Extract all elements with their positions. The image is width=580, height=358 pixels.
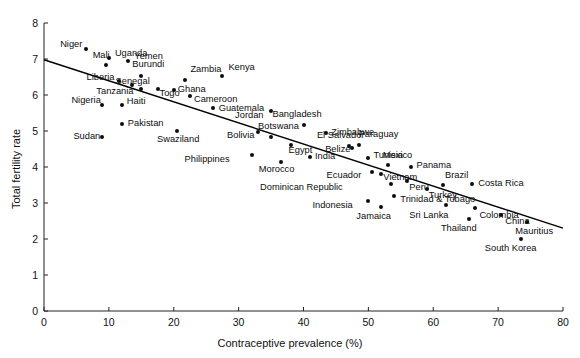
- x-tick-label: 20: [168, 316, 180, 328]
- data-point-label: Bolivia: [227, 130, 254, 140]
- data-point: [366, 156, 370, 160]
- y-tick-label: 5: [24, 125, 38, 137]
- data-point-label: Zambia: [190, 64, 221, 74]
- data-point-label: Peru: [409, 182, 429, 192]
- data-point-label: Mauritius: [515, 226, 553, 236]
- data-point: [473, 206, 477, 210]
- x-tick-label: 70: [492, 316, 504, 328]
- data-point-label: Swaziland: [157, 134, 199, 144]
- data-point: [139, 87, 143, 91]
- data-point-label: Togo: [160, 88, 180, 98]
- x-tick-label: 40: [298, 316, 310, 328]
- data-point-label: Niger: [60, 39, 82, 49]
- data-point-label: Senegal: [116, 76, 150, 86]
- data-point-label: Liberia: [87, 72, 115, 82]
- x-tick-label: 80: [557, 316, 569, 328]
- data-point: [269, 135, 273, 139]
- data-point: [357, 143, 361, 147]
- data-point: [392, 194, 396, 198]
- x-tick-label: 30: [233, 316, 245, 328]
- data-point: [120, 103, 124, 107]
- data-point: [100, 135, 104, 139]
- data-point-label: Sudan: [73, 131, 100, 141]
- x-tick-label: 0: [41, 316, 47, 328]
- x-tick-label: 10: [103, 316, 115, 328]
- scatter-plot-figure: NigerUgandaMaliYemenBurundiZambiaLiberia…: [0, 0, 580, 358]
- data-point: [366, 199, 370, 203]
- data-point: [370, 170, 374, 174]
- data-point: [104, 63, 108, 67]
- y-tick-label: 0: [24, 305, 38, 317]
- y-tick-label: 7: [24, 53, 38, 65]
- data-point-label: Brazil: [445, 170, 468, 180]
- data-point: [211, 106, 215, 110]
- data-point-label: El Salvador: [317, 130, 365, 140]
- data-point-label: Nigeria: [71, 95, 100, 105]
- y-tick-label: 4: [24, 161, 38, 173]
- data-point: [120, 122, 124, 126]
- y-tick-label: 8: [24, 17, 38, 29]
- data-point-label: Bangladesh: [273, 109, 322, 119]
- data-point-label: Botswana: [258, 121, 299, 131]
- data-point-label: Thailand: [441, 223, 477, 233]
- data-point-label: South Korea: [485, 243, 537, 253]
- data-point-label: Ghana: [178, 84, 206, 94]
- y-tick-label: 1: [24, 269, 38, 281]
- data-point: [467, 217, 471, 221]
- data-point-label: Morocco: [259, 164, 295, 174]
- y-tick-label: 6: [24, 89, 38, 101]
- x-tick-label: 60: [427, 316, 439, 328]
- data-point: [220, 74, 224, 78]
- data-point-label: Mali: [93, 50, 110, 60]
- data-point-label: Mexico: [383, 150, 412, 160]
- data-point-label: Sri Lanka: [409, 210, 448, 220]
- data-point-label: Jamaica: [356, 211, 391, 221]
- data-point-label: Costa Rica: [478, 178, 523, 188]
- data-point-label: Indonesia: [312, 200, 352, 210]
- data-point: [350, 146, 354, 150]
- data-point: [379, 205, 383, 209]
- data-point-label: Panama: [417, 160, 452, 170]
- data-point-label: Trinidad & Tobago: [400, 194, 475, 204]
- data-point: [470, 182, 474, 186]
- data-point-label: Dominican Republic: [260, 182, 343, 192]
- data-point-label: Philippines: [185, 154, 230, 164]
- data-point: [389, 182, 393, 186]
- data-point: [441, 183, 445, 187]
- data-point-label: Egypt: [289, 145, 313, 155]
- data-point-label: Jordan: [235, 110, 263, 120]
- data-point-label: Paraguay: [359, 129, 399, 139]
- data-point-label: Pakistan: [128, 118, 164, 128]
- y-tick-label: 3: [24, 197, 38, 209]
- x-axis-title: Contraceptive prevalence (%): [0, 337, 580, 349]
- data-point-label: Kenya: [228, 62, 254, 72]
- data-point-label: Vietnam: [383, 172, 417, 182]
- data-point-label: China: [505, 216, 529, 226]
- data-point-label: Ecuador: [327, 170, 362, 180]
- x-tick-label: 50: [363, 316, 375, 328]
- data-point: [250, 153, 254, 157]
- data-point: [308, 155, 312, 159]
- data-point-label: Belize: [325, 144, 350, 154]
- y-axis-title: Total fertility rate: [10, 129, 22, 209]
- data-point: [409, 165, 413, 169]
- data-point: [183, 78, 187, 82]
- data-point-label: Haiti: [127, 96, 146, 106]
- data-point-label: Burundi: [132, 59, 164, 69]
- data-point: [519, 237, 523, 241]
- data-point: [386, 163, 390, 167]
- data-point-label: Tanzania: [96, 86, 133, 96]
- data-point: [188, 94, 192, 98]
- data-point: [302, 123, 306, 127]
- data-point: [126, 59, 130, 63]
- data-point: [175, 129, 179, 133]
- data-point: [84, 47, 88, 51]
- y-tick-label: 2: [24, 233, 38, 245]
